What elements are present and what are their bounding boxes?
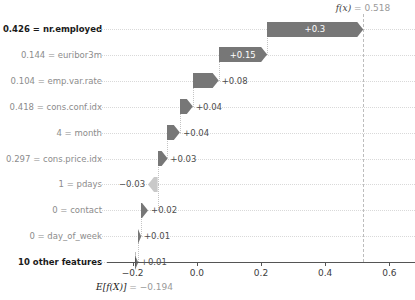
base-value-tick [135, 258, 136, 266]
bar-value-label: +0.3 [305, 25, 326, 34]
bar-shape [148, 177, 158, 192]
feature-label: 1 = pdays [59, 180, 102, 189]
gridline [100, 159, 415, 160]
bar-value-label: +0.04 [196, 102, 222, 111]
bar-shape [193, 73, 219, 88]
feature-label: 0 = contact [52, 206, 102, 215]
feature-label: 0.144 = euribor3m [21, 51, 102, 60]
x-tick-label: 0.2 [254, 268, 268, 278]
x-tick-label: 0.0 [190, 268, 204, 278]
output-value-annotation: f(x) = 0.518 [336, 3, 390, 13]
bar-value-label: +0.04 [183, 128, 209, 137]
fx-symbol: f(x) [336, 3, 351, 13]
bar-value-label: +0.01 [144, 232, 170, 241]
feature-label: 0.297 = cons.price.idx [6, 154, 102, 163]
x-tick-label: 0.4 [318, 268, 332, 278]
waterfall-bar [138, 228, 143, 245]
waterfall-bar [180, 98, 195, 115]
gridline [100, 107, 415, 108]
efx-value: −0.194 [140, 282, 173, 292]
waterfall-bar [158, 150, 170, 167]
bar-shape [138, 229, 141, 244]
bar-value-label: +0.15 [230, 51, 256, 60]
bar-shape [180, 99, 193, 114]
feature-label: 4 = month [56, 128, 102, 137]
feature-label: 0.418 = cons.conf.idx [10, 102, 102, 111]
gridline [100, 29, 415, 30]
waterfall-bar [148, 176, 160, 193]
efx-eq: = [126, 282, 139, 292]
feature-label-column: 0.426 = nr.employed0.144 = euribor3m0.10… [0, 0, 102, 300]
feature-label: 0.426 = nr.employed [3, 25, 102, 34]
fx-value: 0.518 [364, 3, 390, 13]
shap-waterfall-plot: 0.426 = nr.employed0.144 = euribor3m0.10… [0, 0, 415, 300]
base-value-annotation: E[f(X)] = −0.194 [96, 282, 173, 292]
bar-value-label: +0.03 [170, 154, 196, 163]
waterfall-bar [193, 72, 221, 89]
gridline [100, 81, 415, 82]
efx-symbol: E[f(X)] [96, 282, 126, 292]
x-tick [133, 262, 134, 266]
x-tick [389, 262, 390, 266]
bar-value-label: +0.08 [222, 77, 248, 86]
x-tick [261, 262, 262, 266]
feature-label: 0 = day_of_week [29, 232, 102, 241]
waterfall-bar [167, 124, 182, 141]
bar-shape [167, 125, 180, 140]
x-tick [325, 262, 326, 266]
x-tick [197, 262, 198, 266]
bar-value-label: −0.03 [119, 180, 145, 189]
waterfall-bar [141, 202, 150, 219]
bar-value-label: +0.02 [151, 206, 177, 215]
output-value-reference-line [363, 14, 364, 262]
bar-shape [158, 151, 168, 166]
gridline [100, 133, 415, 134]
feature-label: 0.104 = emp.var.rate [11, 77, 102, 86]
bar-shape [141, 203, 148, 218]
plot-area: +0.3+0.15+0.08+0.04+0.04+0.03−0.03+0.02+… [107, 0, 415, 300]
x-tick-label: −0.2 [122, 268, 144, 278]
feature-label: 10 other features [18, 258, 102, 267]
fx-eq: = [351, 3, 364, 13]
x-tick-label: 0.6 [382, 268, 396, 278]
